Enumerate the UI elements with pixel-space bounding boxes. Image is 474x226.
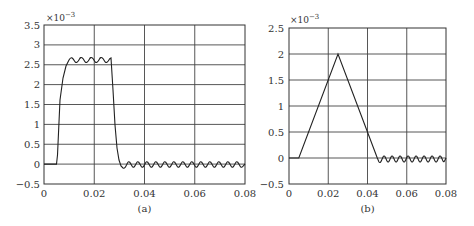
svg-text:0: 0 [34,159,40,170]
y-axis-b: 2.5 2 1.5 1 0.5 0 −0.5 [260,23,284,190]
svg-text:1.5: 1.5 [268,75,284,86]
svg-text:1: 1 [278,101,284,112]
caption-b: (b) [360,203,374,214]
grid-a [44,25,245,184]
svg-text:0.5: 0.5 [24,139,40,150]
svg-text:0: 0 [41,188,47,199]
y-axis-a: 3.5 3 2.5 2 1.5 1 0.5 0 −0.5 [16,20,40,190]
chart-b: 2.5 2 1.5 1 0.5 0 −0.5 ×10−3 0 0.02 0.04… [260,13,457,214]
svg-text:0.08: 0.08 [234,188,256,199]
svg-text:0: 0 [278,153,284,164]
svg-text:0.06: 0.06 [184,188,206,199]
svg-text:3: 3 [34,39,40,50]
figure: 3.5 3 2.5 2 1.5 1 0.5 0 −0.5 ×10−3 0 0.0… [0,0,474,226]
exponent-label-b: ×10−3 [290,13,319,25]
svg-text:1.5: 1.5 [24,99,40,110]
svg-text:1: 1 [34,119,40,130]
svg-text:3.5: 3.5 [24,20,40,31]
svg-text:0.02: 0.02 [83,188,105,199]
svg-text:0.04: 0.04 [356,188,378,199]
exponent-label-a: ×10−3 [46,11,75,23]
caption-a: (a) [138,203,152,214]
grid-b [289,28,446,184]
x-axis-b: 0 0.02 0.04 0.06 0.08 [286,188,457,199]
svg-text:2: 2 [34,79,40,90]
svg-text:0.04: 0.04 [133,188,155,199]
svg-text:0: 0 [286,188,292,199]
svg-text:0.08: 0.08 [435,188,457,199]
svg-text:0.06: 0.06 [396,188,418,199]
svg-text:0.02: 0.02 [317,188,339,199]
svg-text:2.5: 2.5 [268,23,284,34]
svg-text:2: 2 [278,49,284,60]
svg-text:0.5: 0.5 [268,127,284,138]
svg-text:2.5: 2.5 [24,59,40,70]
chart-a: 3.5 3 2.5 2 1.5 1 0.5 0 −0.5 ×10−3 0 0.0… [16,11,256,214]
x-axis-a: 0 0.02 0.04 0.06 0.08 [41,188,256,199]
svg-text:−0.5: −0.5 [260,179,284,190]
svg-text:−0.5: −0.5 [16,179,40,190]
